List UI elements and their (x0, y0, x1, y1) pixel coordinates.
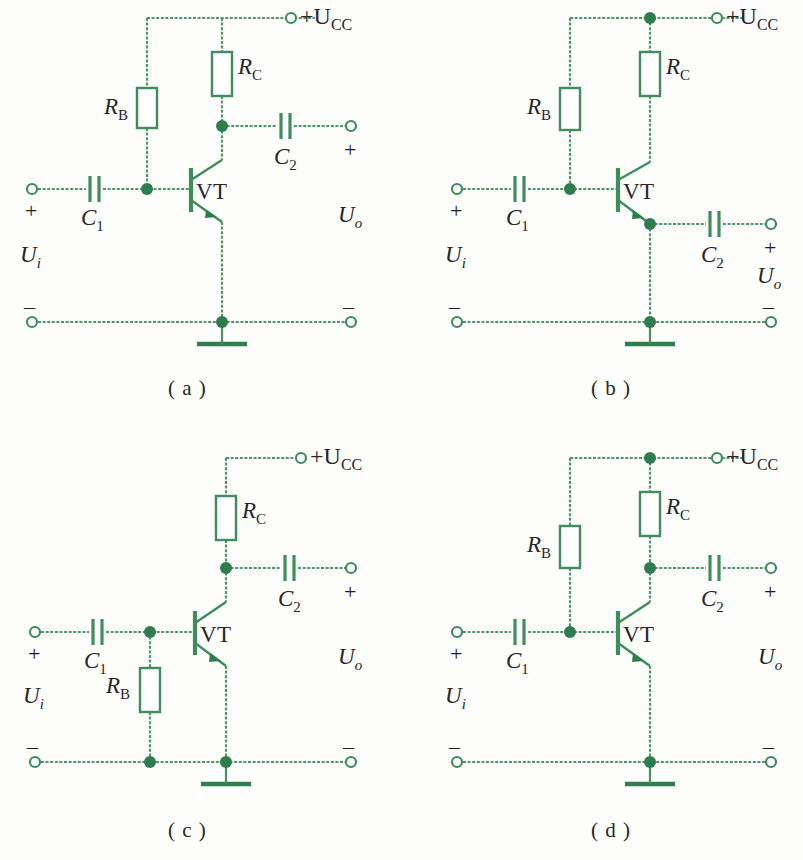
node-collector-a (216, 120, 228, 132)
resistor-rb-d (560, 526, 580, 568)
terminal-ucc-b[interactable] (712, 13, 722, 23)
caption-a: ( a ) (168, 378, 207, 399)
label-uo-minus-d: – (763, 736, 774, 758)
label-rb-a: RB (104, 95, 128, 123)
label-rc-a: RC (238, 55, 262, 83)
terminal-ui-plus-b[interactable] (452, 184, 462, 194)
label-ui-minus-d: – (449, 736, 460, 758)
label-ui-plus-b: + (450, 200, 462, 222)
label-ui-plus-c: + (28, 643, 40, 665)
circuit-panel-b: +UCC RB RC C1 C2 VT + Ui – + Uo (401, 0, 802, 430)
label-ui-minus-a: – (24, 296, 35, 318)
terminal-uo-plus-c[interactable] (346, 563, 356, 573)
label-uo-plus-b: + (764, 237, 776, 259)
label-supply-b: +UCC (726, 4, 778, 33)
terminal-uo-plus-a[interactable] (346, 121, 356, 131)
label-vt-c: VT (200, 623, 232, 646)
label-c2-a: C2 (274, 145, 297, 173)
terminal-uo-plus-b[interactable] (766, 219, 776, 229)
transistor-emitter-arrow-b (632, 210, 644, 219)
label-c1-a: C1 (81, 206, 104, 234)
label-c2-c: C2 (278, 587, 301, 615)
resistor-rc-a (212, 52, 232, 96)
label-uo-plus-a: + (344, 139, 356, 161)
label-ui-plus-d: + (450, 643, 462, 665)
node-base-d (564, 626, 576, 638)
label-c1-d: C1 (506, 649, 529, 677)
resistor-rb-c (140, 668, 160, 712)
transistor-collector-lead-c (195, 602, 226, 623)
caption-c: ( c ) (168, 820, 207, 841)
node-ground-d (644, 756, 656, 768)
label-rc-b: RC (666, 55, 690, 83)
node-ground-c (220, 756, 232, 768)
label-vt-a: VT (196, 180, 228, 203)
label-vt-d: VT (623, 623, 655, 646)
terminal-ui-plus-d[interactable] (452, 627, 462, 637)
label-uo-plus-c: + (344, 581, 356, 603)
label-ui-minus-b: – (449, 296, 460, 318)
node-collector-c (220, 562, 232, 574)
caption-b: ( b ) (591, 378, 631, 399)
terminal-uo-plus-d[interactable] (766, 563, 776, 573)
node-ground-a (216, 316, 228, 328)
terminal-ui-plus-a[interactable] (27, 184, 37, 194)
terminal-ui-plus-c[interactable] (30, 627, 40, 637)
terminal-ucc-c[interactable] (296, 453, 306, 463)
label-ui-d: Ui (445, 684, 466, 712)
label-uo-a: Uo (338, 203, 362, 231)
node-supply-d (644, 452, 656, 464)
node-supply-b (644, 12, 656, 24)
label-ui-c: Ui (23, 684, 44, 712)
node-rb-ground-c (144, 756, 156, 768)
label-ui-plus-a: + (25, 200, 37, 222)
label-supply-d: +UCC (726, 444, 778, 473)
node-base-c (144, 626, 156, 638)
label-uo-c: Uo (338, 645, 362, 673)
label-ui-minus-c: – (27, 736, 38, 758)
resistor-rb-b (560, 88, 580, 130)
label-uo-minus-c: – (343, 736, 354, 758)
label-rb-c: RB (106, 674, 130, 702)
label-c1-c: C1 (84, 649, 107, 677)
transistor-emitter-arrow-d (632, 653, 644, 662)
circuit-panel-d: +UCC RB RC C1 C2 VT + Ui – + Uo (401, 430, 802, 860)
label-c2-d: C2 (701, 587, 724, 615)
label-supply-c: +UCC (310, 444, 362, 473)
label-ui-a: Ui (20, 243, 41, 271)
node-emitter-b (644, 218, 656, 230)
label-uo-plus-d: + (764, 581, 776, 603)
terminal-ucc-d[interactable] (712, 453, 722, 463)
figure-sheet: +UCC RB RC C1 C2 VT + Ui – + Uo (0, 0, 803, 860)
label-rb-b: RB (527, 95, 551, 123)
label-rc-c: RC (242, 499, 266, 527)
label-rc-d: RC (666, 495, 690, 523)
transistor-emitter-arrow-c (209, 653, 221, 662)
resistor-rb-a (137, 88, 157, 128)
terminal-ucc-a[interactable] (286, 13, 296, 23)
label-ui-b: Ui (445, 243, 466, 271)
node-collector-d (644, 562, 656, 574)
transistor-collector-lead-a (191, 160, 222, 180)
label-c1-b: C1 (506, 206, 529, 234)
transistor-collector-lead-b (618, 162, 650, 180)
node-base-a (141, 183, 153, 195)
resistor-rc-b (640, 52, 660, 96)
label-c2-b: C2 (701, 243, 724, 271)
circuit-panel-a: +UCC RB RC C1 C2 VT + Ui – + Uo (0, 0, 401, 430)
label-supply-a: +UCC (300, 4, 352, 33)
label-uo-d: Uo (758, 645, 782, 673)
node-ground-b (644, 316, 656, 328)
resistor-rc-d (640, 492, 660, 536)
node-base-b (564, 183, 576, 195)
circuit-panel-c: +UCC RC RB C1 C2 VT + Ui – + Uo (0, 430, 401, 860)
transistor-collector-lead-d (618, 602, 650, 623)
label-uo-minus-a: – (343, 296, 354, 318)
resistor-rc-c (216, 496, 236, 540)
label-vt-b: VT (623, 180, 655, 203)
label-uo-b: Uo (757, 264, 781, 292)
caption-d: ( d ) (591, 820, 631, 841)
label-rb-d: RB (527, 533, 551, 561)
transistor-emitter-arrow-a (205, 210, 217, 218)
label-uo-minus-b: – (763, 296, 774, 318)
